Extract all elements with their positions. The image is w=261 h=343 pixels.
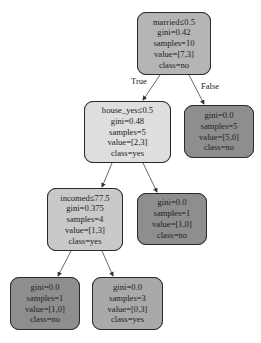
tree-node-house-yes: house_yes≤0.5 gini=0.48 samples=5 value=… <box>84 101 171 163</box>
node-samples: samples=5 <box>109 127 146 138</box>
node-gini: gini=0.0 <box>31 282 60 293</box>
edge-label-true: True <box>131 76 147 86</box>
tree-leaf-bottom-left: gini=0.0 samples=1 value=[1,0] class=no <box>10 277 80 330</box>
node-class: class=no <box>157 230 187 241</box>
node-gini: gini=0.0 <box>113 282 142 293</box>
node-class: class=no <box>159 60 189 71</box>
node-samples: samples=10 <box>153 38 194 49</box>
node-gini: gini=0.0 <box>205 110 234 121</box>
node-class: class=yes <box>111 314 144 325</box>
node-samples: samples=3 <box>109 293 146 304</box>
tree-leaf-false: gini=0.0 samples=5 value=[5,0] class=no <box>184 105 254 158</box>
node-split: incomed≤77.5 <box>60 193 109 204</box>
edge-label-false: False <box>201 81 219 91</box>
node-samples: samples=1 <box>27 293 64 304</box>
node-samples: samples=1 <box>154 208 191 219</box>
edge-house-to-incomed <box>102 163 112 187</box>
node-split: married≤0.5 <box>153 17 195 28</box>
node-value: value=[1,0] <box>25 304 65 315</box>
node-samples: samples=4 <box>67 214 104 225</box>
node-value: value=[1,3] <box>65 225 105 236</box>
node-class: class=yes <box>111 148 144 159</box>
tree-leaf-house-right: gini=0.0 samples=1 value=[1,0] class=no <box>137 193 207 245</box>
node-class: class=no <box>30 314 60 325</box>
tree-node-incomed: incomed≤77.5 gini=0.375 samples=4 value=… <box>47 188 123 251</box>
node-gini: gini=0.375 <box>66 203 104 214</box>
node-value: value=[2,3] <box>108 137 148 148</box>
edge-incomed-to-leaf-left <box>58 251 71 276</box>
node-value: value=[5,0] <box>199 132 239 143</box>
node-class: class=yes <box>68 236 101 247</box>
edge-house-to-leaf <box>143 163 157 192</box>
node-class: class=no <box>204 142 234 153</box>
node-value: value=[0,3] <box>108 304 148 315</box>
node-samples: samples=5 <box>201 121 238 132</box>
node-gini: gini=0.48 <box>111 116 144 127</box>
node-gini: gini=0.0 <box>158 197 187 208</box>
edge-incomed-to-leaf-right <box>102 251 113 276</box>
node-value: value=[1,0] <box>152 219 192 230</box>
tree-leaf-bottom-right: gini=0.0 samples=3 value=[0,3] class=yes <box>92 277 163 330</box>
node-value: value=[7,3] <box>154 49 194 60</box>
node-gini: gini=0.42 <box>157 27 190 38</box>
node-split: house_yes≤0.5 <box>102 105 153 116</box>
tree-node-root: married≤0.5 gini=0.42 samples=10 value=[… <box>137 12 211 75</box>
